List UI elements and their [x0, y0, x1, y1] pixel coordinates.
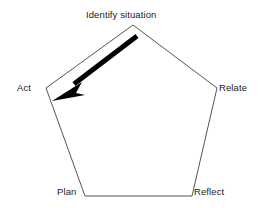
node-label-relate: Relate	[219, 82, 247, 93]
arrow-shaft	[74, 36, 137, 84]
arrow-head	[52, 82, 85, 101]
node-label-plan: Plan	[57, 186, 76, 197]
node-label-act: Act	[17, 82, 31, 93]
node-label-identify-situation: Identify situation	[86, 9, 156, 20]
identify-to-act-arrow	[52, 36, 137, 101]
pentagon-cycle-diagram: Identify situation Relate Reflect Plan A…	[0, 0, 266, 211]
node-label-reflect: Reflect	[194, 186, 224, 197]
diagram-canvas	[0, 0, 266, 211]
pentagon-outline	[46, 25, 217, 196]
